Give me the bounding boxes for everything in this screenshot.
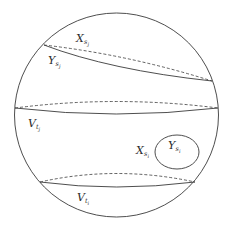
top-cap-back-edge [44,45,212,81]
label-y-sj: Y s j [48,54,61,70]
bottom-cap-back-edge [40,174,195,183]
equator-front-edge [15,108,218,114]
bottom-cap-front-edge [40,182,195,187]
label-v-tj: V t j [28,117,41,133]
label-y-si: Y s i [168,139,181,154]
svg-text:j: j [58,63,61,70]
svg-text:i: i [88,200,90,206]
svg-text:j: j [87,41,90,48]
sphere-diagram: X s j Y s j V t j X s i Y s i V t i [0,0,233,233]
sphere-outline [15,13,219,217]
svg-text:i: i [148,153,150,159]
equator-back-edge [15,102,218,109]
svg-text:i: i [179,148,181,154]
label-x-sj: X s j [75,32,90,48]
top-cap-front-edge [44,45,212,81]
label-v-ti: V t i [77,191,90,206]
svg-text:j: j [38,126,41,133]
label-x-si: X s i [135,144,150,159]
